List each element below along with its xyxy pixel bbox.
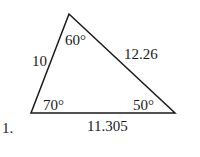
angle-top-label: 60° [65,32,86,48]
side-left-label: 10 [32,53,47,69]
triangle-diagram: 60° 70° 50° 10 12.26 11.305 1. [0,0,200,157]
side-bottom-label: 11.305 [87,118,128,134]
problem-number: 1. [2,120,13,136]
angle-bottom-left-label: 70° [43,97,64,113]
side-right-label: 12.26 [124,46,158,62]
angle-bottom-right-label: 50° [133,97,154,113]
